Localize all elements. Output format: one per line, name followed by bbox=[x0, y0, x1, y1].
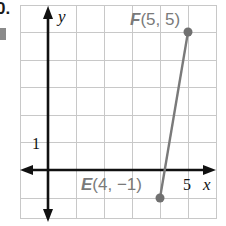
point-e-coords: (4, −1) bbox=[92, 175, 142, 194]
point-f-name: F bbox=[130, 10, 141, 29]
x-axis-right-arrow-icon bbox=[203, 165, 216, 175]
point-e-name: E bbox=[81, 175, 93, 194]
point-f-coords: (5, 5) bbox=[140, 10, 180, 29]
x-axis-left-arrow-icon bbox=[20, 165, 33, 175]
y-axis-down-arrow-icon bbox=[43, 209, 53, 222]
point-e bbox=[156, 194, 165, 203]
coordinate-graph: y x 5 1 F(5, 5) E(4, −1) bbox=[0, 0, 226, 226]
y-axis-label: y bbox=[56, 7, 66, 26]
x-axis-label: x bbox=[202, 175, 211, 194]
y-tick-label-1: 1 bbox=[32, 135, 40, 152]
x-tick-label-5: 5 bbox=[183, 176, 191, 193]
y-axis-up-arrow-icon bbox=[43, 6, 53, 19]
point-e-label: E(4, −1) bbox=[81, 175, 142, 194]
point-f-label: F(5, 5) bbox=[130, 10, 180, 29]
point-f bbox=[184, 28, 193, 37]
